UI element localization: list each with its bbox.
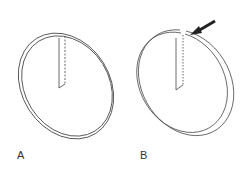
- arrow-icon: [190, 21, 215, 35]
- ring-b: [137, 30, 234, 136]
- panel-label-a: A: [17, 149, 24, 161]
- panel-label-b: B: [140, 149, 147, 161]
- tab-a: [59, 36, 65, 88]
- diagram-canvas: [0, 0, 248, 172]
- ring-a: [0, 15, 133, 157]
- tab-b: [176, 35, 183, 90]
